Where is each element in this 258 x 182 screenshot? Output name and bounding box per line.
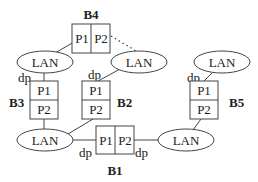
bridge-b3-port1: P1: [37, 83, 51, 98]
bridge-b1-port2: P2: [118, 133, 132, 148]
bridge-b5-port1: P1: [197, 83, 211, 98]
lan-top-middle: LAN: [111, 51, 167, 73]
bridge-b4-label: B4: [83, 7, 99, 22]
dp-label-b1-p1: dp: [79, 145, 92, 160]
lan-bottom-right: LAN: [158, 129, 214, 151]
bridge-b2-port1: P1: [89, 83, 103, 98]
lan-label: LAN: [126, 55, 153, 70]
bridge-b1-port1: P1: [99, 133, 113, 148]
dp-label-b2: dp: [88, 67, 101, 82]
bridge-b2-port2: P2: [89, 102, 103, 117]
bridge-b4-port1: P1: [75, 31, 89, 46]
lan-label: LAN: [209, 55, 236, 70]
bridge-b4-port2: P2: [94, 31, 108, 46]
bridge-b1: P1 P2: [96, 126, 134, 154]
bridge-b4: P1 P2: [72, 24, 110, 53]
bridge-b3-port2: P2: [37, 102, 51, 117]
link-b2p2-lan-bottom-left: [68, 119, 93, 134]
bridge-b3-label: B3: [9, 95, 25, 110]
bridge-b2: P1 P2: [82, 81, 110, 119]
bridge-b2-label: B2: [117, 95, 132, 110]
link-b5p2-lan-bottom-right: [193, 119, 201, 130]
lan-bottom-left: LAN: [17, 129, 73, 151]
bridge-b5: P1 P2: [190, 81, 218, 119]
lan-top-right: LAN: [194, 51, 250, 73]
bridge-b5-label: B5: [229, 95, 245, 110]
link-b4p1-lan-top-left: [55, 42, 74, 53]
bridge-lan-topology-diagram: B4 P1 P2 LAN LAN LAN dp dp dp P1 P2 B3 P…: [0, 0, 258, 182]
dp-label-b1-p2: dp: [135, 145, 148, 160]
link-lan-top-right-b5p1: [204, 73, 212, 81]
lan-label: LAN: [173, 133, 200, 148]
bridge-b5-port2: P2: [197, 102, 211, 117]
dp-label-b3: dp: [18, 70, 31, 85]
bridge-b1-label: B1: [107, 163, 122, 178]
lan-label: LAN: [32, 55, 59, 70]
lan-label: LAN: [32, 133, 59, 148]
blocked-link-b4p2-lan-top-middle: [111, 36, 136, 51]
bridge-b3: P1 P2: [30, 81, 58, 119]
